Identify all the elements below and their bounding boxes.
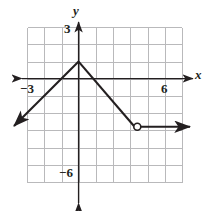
grid-lines [28,28,183,183]
y-axis-label: y [73,4,79,17]
open-circle-marker [134,123,141,130]
y-tick-label-neg6: −6 [59,166,73,179]
graph-figure: y x 3 −3 6 −6 [0,0,209,211]
descending-segment [79,62,135,127]
x-axis-label: x [195,68,202,81]
y-tick-label-3: 3 [64,22,71,35]
x-tick-label-6: 6 [161,82,168,95]
coordinate-plane-svg [0,0,209,211]
x-tick-label-neg3: −3 [20,82,34,95]
